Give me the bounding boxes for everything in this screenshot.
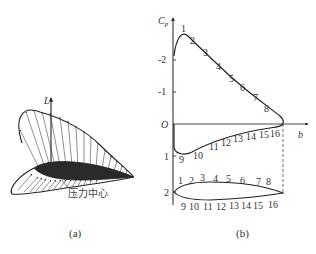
svg-text:16: 16 bbox=[268, 199, 278, 210]
origin-label: O bbox=[161, 119, 168, 130]
svg-text:12: 12 bbox=[216, 201, 226, 212]
svg-text:3: 3 bbox=[203, 47, 208, 58]
svg-text:1: 1 bbox=[178, 175, 183, 186]
svg-text:1: 1 bbox=[181, 23, 186, 34]
airfoil-lower-labels: 9 10 11 12 13 14 15 16 bbox=[181, 199, 278, 212]
panel-b-pressure-distribution: Cp b O -2 -1 1 2 1 2 3 4 5 6 7 8 bbox=[158, 15, 308, 212]
svg-text:9: 9 bbox=[179, 154, 184, 165]
tick-pos1: 1 bbox=[164, 151, 169, 162]
svg-text:11: 11 bbox=[203, 201, 213, 212]
center-of-pressure-label: 压力中心 bbox=[68, 187, 108, 199]
svg-text:13: 13 bbox=[233, 133, 243, 144]
tick-neg2: -2 bbox=[158, 54, 166, 65]
svg-text:8: 8 bbox=[264, 103, 269, 114]
caption-b: (b) bbox=[236, 227, 249, 240]
svg-text:6: 6 bbox=[240, 175, 245, 186]
svg-text:10: 10 bbox=[189, 201, 199, 212]
svg-text:7: 7 bbox=[256, 176, 261, 187]
svg-text:14: 14 bbox=[246, 131, 256, 142]
airfoil-section bbox=[34, 162, 134, 180]
svg-text:6: 6 bbox=[240, 82, 245, 93]
svg-text:11: 11 bbox=[209, 141, 219, 152]
svg-text:5: 5 bbox=[229, 73, 234, 84]
svg-text:7: 7 bbox=[253, 92, 258, 103]
caption-a: (a) bbox=[69, 227, 82, 240]
upper-cp-point-labels: 1 2 3 4 5 6 7 8 bbox=[181, 23, 269, 114]
svg-text:13: 13 bbox=[229, 200, 239, 211]
airfoil-upper-labels: 1 2 3 4 5 6 7 8 bbox=[178, 172, 271, 187]
tick-pos2: 2 bbox=[164, 187, 169, 198]
tick-neg1: -1 bbox=[158, 86, 166, 97]
svg-text:4: 4 bbox=[216, 61, 221, 72]
svg-text:9: 9 bbox=[181, 201, 186, 212]
cp-axis-label: Cp bbox=[158, 15, 169, 28]
svg-text:2: 2 bbox=[190, 35, 195, 46]
svg-text:10: 10 bbox=[193, 150, 203, 161]
svg-text:12: 12 bbox=[221, 137, 231, 148]
svg-text:5: 5 bbox=[226, 173, 231, 184]
lower-cp-point-labels: 9 10 11 12 13 14 15 16 bbox=[179, 128, 280, 165]
svg-text:15: 15 bbox=[259, 129, 269, 140]
svg-text:2: 2 bbox=[189, 175, 194, 186]
svg-text:8: 8 bbox=[266, 176, 271, 187]
svg-text:15: 15 bbox=[253, 200, 263, 211]
svg-text:3: 3 bbox=[200, 172, 205, 183]
svg-text:4: 4 bbox=[213, 173, 218, 184]
panel-a-pressure-diagram: L 压力中心 bbox=[11, 95, 134, 199]
svg-text:14: 14 bbox=[241, 200, 251, 211]
chord-axis-label: b bbox=[298, 129, 303, 140]
svg-text:16: 16 bbox=[270, 128, 280, 139]
lift-label: L bbox=[43, 95, 50, 106]
